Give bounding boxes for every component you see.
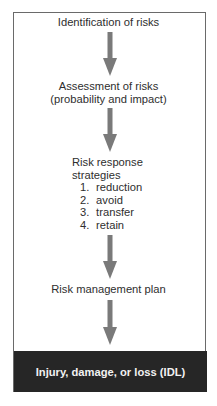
strategy-item: 4. retain xyxy=(72,219,143,232)
strategy-item: 1. reduction xyxy=(72,181,143,194)
step-risk-response-strategies: Risk response strategies 1. reduction 2.… xyxy=(72,156,143,232)
outcome-label: Injury, damage, or loss (IDL) xyxy=(36,366,186,378)
down-arrow-icon xyxy=(103,32,117,76)
strategies-title-line1: Risk response xyxy=(72,156,143,169)
strategy-number: 4. xyxy=(80,219,93,232)
step-assessment-of-risks: Assessment of risks xyxy=(0,80,217,93)
strategy-label: transfer xyxy=(96,206,134,218)
down-arrow-icon xyxy=(103,300,117,345)
strategy-label: retain xyxy=(96,219,124,231)
step-identification-of-risks: Identification of risks xyxy=(0,16,217,29)
strategy-item: 2. avoid xyxy=(72,194,143,207)
strategy-number: 1. xyxy=(80,181,93,194)
strategy-label: avoid xyxy=(96,194,123,206)
strategy-number: 3. xyxy=(80,206,93,219)
step-assessment-subtitle: (probability and impact) xyxy=(0,93,217,106)
strategy-item: 3. transfer xyxy=(72,206,143,219)
step-risk-management-plan: Risk management plan xyxy=(0,283,217,296)
strategy-label: reduction xyxy=(96,181,142,193)
outcome-injury-damage-loss: Injury, damage, or loss (IDL) xyxy=(14,351,207,392)
down-arrow-icon xyxy=(103,108,117,152)
strategies-title-line2: strategies xyxy=(72,169,143,182)
down-arrow-icon xyxy=(103,235,117,279)
strategy-number: 2. xyxy=(80,194,93,207)
